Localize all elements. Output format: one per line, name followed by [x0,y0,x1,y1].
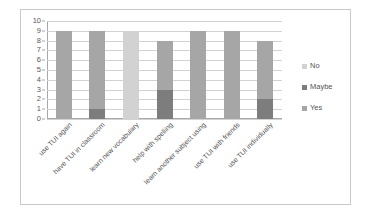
legend-swatch-icon [302,64,307,69]
y-axis-tick-label: 9 [37,27,41,35]
bar-segment-yes[interactable] [89,31,105,109]
bar-segment-no[interactable] [123,31,139,119]
bar-segment-yes[interactable] [224,31,240,119]
y-axis-tick-mark [42,40,45,41]
bar-segment-yes[interactable] [56,31,72,119]
x-axis-label: learn another subject using [143,121,208,186]
y-axis-tick-label: 7 [37,47,41,55]
legend-item[interactable]: Maybe [302,83,350,91]
y-axis-tick-mark [42,50,45,51]
y-axis-tick-label: 8 [37,37,41,45]
bar-segment-yes[interactable] [257,41,273,100]
bar-segment-maybe[interactable] [257,99,273,119]
bar-group[interactable] [224,31,240,119]
x-axis-label: use TUI again [37,121,73,157]
y-axis-tick-mark [42,109,45,110]
y-axis-tick-mark [42,30,45,31]
bar-segment-maybe[interactable] [157,90,173,119]
legend-item[interactable]: Yes [302,104,350,112]
legend-swatch-icon [302,106,307,111]
bar-group[interactable] [56,31,72,119]
gridline [47,21,282,22]
y-axis-tick-label: 0 [37,115,41,123]
y-axis-tick-label: 5 [37,66,41,74]
y-axis-tick-label: 10 [33,17,41,25]
bar-group[interactable] [190,31,206,119]
legend-swatch-icon [302,85,307,90]
bar-segment-maybe[interactable] [89,109,105,119]
y-axis: 012345678910 [21,21,45,119]
x-axis-labels: use TUI againhave TUI in classroomlearn … [47,121,282,205]
y-axis-tick-label: 3 [37,86,41,94]
bar-group[interactable] [257,41,273,119]
legend-label: No [310,62,320,70]
y-axis-tick-mark [42,99,45,100]
y-axis-tick-mark [42,79,45,80]
y-axis-tick-mark [42,70,45,71]
y-axis-tick-label: 6 [37,56,41,64]
chart-frame: 012345678910 use TUI againhave TUI in cl… [20,9,351,205]
bar-group[interactable] [89,31,105,119]
legend-item[interactable]: No [302,62,350,70]
y-axis-tick-mark [42,21,45,22]
legend-label: Maybe [310,83,333,91]
y-axis-tick-mark [42,89,45,90]
gridline [47,31,282,32]
chart-legend: NoMaybeYes [302,62,350,125]
y-axis-tick-label: 4 [37,76,41,84]
legend-label: Yes [310,104,322,112]
y-axis-tick-label: 2 [37,96,41,104]
bar-segment-yes[interactable] [190,31,206,119]
y-axis-tick-mark [42,119,45,120]
gridline [47,119,282,120]
y-axis-tick-label: 1 [37,105,41,113]
bar-group[interactable] [123,31,139,119]
y-axis-tick-mark [42,60,45,61]
plot-area [47,21,282,119]
bar-group[interactable] [157,41,173,119]
bar-segment-yes[interactable] [157,41,173,90]
